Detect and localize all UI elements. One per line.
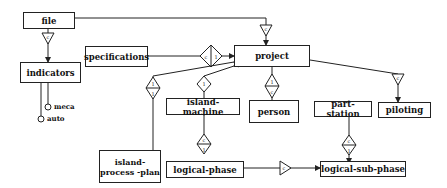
svg-text:1: 1	[151, 91, 154, 97]
entity-specifications[interactable]: specifications	[85, 46, 148, 67]
attribute-meca: meca	[54, 102, 75, 111]
svg-text:c: c	[47, 34, 50, 40]
svg-text:c: c	[203, 137, 206, 143]
svg-text:c: c	[283, 165, 286, 171]
svg-text:1: 1	[202, 81, 205, 87]
entity-piloting[interactable]: piloting	[378, 102, 431, 118]
svg-text:1: 1	[347, 148, 350, 154]
entity-person[interactable]: person	[249, 100, 299, 123]
entity-logical-phase[interactable]: logical-phase	[166, 161, 244, 178]
attribute-auto: auto	[47, 114, 65, 123]
entity-logical-sub-phase[interactable]: logical-sub-phase	[320, 161, 406, 177]
svg-text:1: 1	[151, 81, 154, 87]
svg-text:c: c	[397, 75, 400, 81]
entity-island-process-plan[interactable]: island-process -plan	[99, 150, 161, 183]
svg-text:c: c	[348, 138, 351, 144]
entity-indicators[interactable]: indicators	[20, 62, 81, 83]
entity-part-station[interactable]: part-station	[314, 101, 372, 117]
svg-text:1: 1	[214, 54, 217, 60]
entity-island-machine[interactable]: island-machine	[166, 98, 240, 115]
entity-file[interactable]: file	[23, 12, 75, 29]
svg-text:c: c	[205, 54, 208, 60]
svg-text:c: c	[265, 26, 268, 32]
svg-text:1: 1	[270, 79, 273, 85]
svg-text:c: c	[271, 89, 274, 95]
svg-text:1: 1	[202, 147, 205, 153]
entity-project[interactable]: project	[234, 45, 310, 67]
